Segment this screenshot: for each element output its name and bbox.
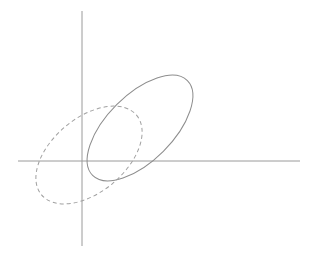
plot-area	[0, 0, 317, 265]
figure-canvas	[0, 0, 317, 265]
plot-background	[0, 0, 317, 265]
